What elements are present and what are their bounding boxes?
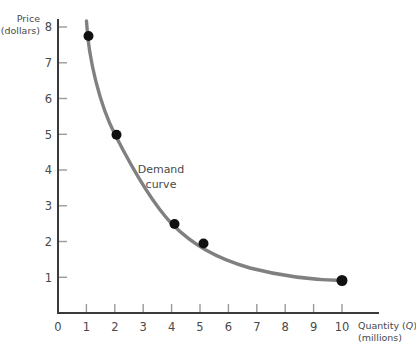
data-point [337,275,348,286]
data-point [112,130,122,140]
demand-curve-chart: 8 7 6 5 4 3 2 1 0 1 2 3 4 5 6 7 8 9 10 P… [0,0,416,353]
demand-curve-annotation: Demand curve [138,163,185,191]
x-axis-title-line2: (millions) [358,332,402,343]
y-tick-label: 5 [45,128,52,142]
data-point [170,219,180,229]
x-axis-tick-labels: 0 1 2 3 4 5 6 7 8 9 10 [54,320,349,334]
x-tick-label: 9 [310,320,317,334]
y-tick-label: 2 [45,235,52,249]
x-axis-title-line1: Quantity (Q) [358,320,416,331]
x-tick-label: 8 [282,320,289,334]
chart-svg: 8 7 6 5 4 3 2 1 0 1 2 3 4 5 6 7 8 9 10 P… [0,0,416,353]
demand-curve-path [87,21,343,281]
x-tick-label: 6 [225,320,232,334]
y-tick-label: 1 [45,271,52,285]
data-point [84,31,94,41]
y-tick-label: 3 [45,199,52,213]
x-tick-label: 4 [168,320,175,334]
x-tick-label: 10 [335,320,350,334]
x-tick-label: 7 [253,320,260,334]
demand-curve-label-line1: Demand [138,163,185,176]
y-tick-label: 4 [45,163,52,177]
y-axis-title: Price (dollars) [1,13,40,36]
x-tick-label: 5 [196,320,203,334]
y-axis-title-line1: Price [17,13,40,24]
x-axis-title-prefix: Quantity ( [358,320,406,331]
y-axis-title-line2: (dollars) [1,25,40,36]
x-tick-label: 0 [54,320,61,334]
data-points [84,31,348,286]
axis-lines [58,20,378,313]
y-tick-label: 8 [45,20,52,34]
x-axis-ticks [86,304,342,313]
x-tick-label: 1 [83,320,90,334]
y-axis-ticks [58,27,67,277]
y-tick-label: 6 [45,92,52,106]
x-axis-title: Quantity (Q) (millions) [358,320,416,343]
x-tick-label: 3 [140,320,147,334]
x-tick-label: 2 [111,320,118,334]
demand-curve-label-line2: curve [146,178,177,191]
data-point [199,239,209,249]
y-axis-tick-labels: 8 7 6 5 4 3 2 1 [45,20,52,284]
y-tick-label: 7 [45,56,52,70]
